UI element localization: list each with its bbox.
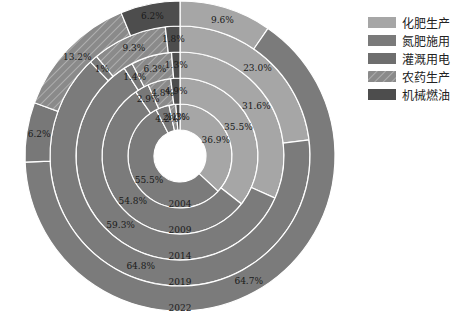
chart-rings (25, 1, 335, 311)
ring-year-label: 2022 (169, 303, 192, 313)
ring-year-label: 2004 (169, 199, 192, 209)
segment-value-label: 1.8% (162, 34, 185, 44)
segment-value-label: 1.3% (167, 112, 190, 122)
legend-label: 机械燃油 (402, 86, 450, 103)
segment-value-label: 54.8% (118, 196, 147, 206)
segment-value-label: 9.6% (211, 15, 234, 25)
segment-value-label: 6.2% (28, 129, 51, 139)
legend-item-nitrogen-application: 氮肥施用 (368, 32, 450, 49)
legend-label: 灌溉用电 (402, 50, 450, 67)
segment-value-label: 6.2% (141, 11, 164, 21)
segment-value-label: 64.8% (126, 261, 155, 271)
segment-value-label: 31.6% (242, 101, 271, 111)
segment-value-label: 1% (95, 64, 110, 74)
ring-year-label: 2014 (169, 251, 192, 261)
segment-value-label: 1.3% (165, 60, 188, 70)
legend-swatch (368, 89, 396, 100)
legend-item-irrigation-electricity: 灌溉用电 (368, 50, 450, 67)
segment-value-label: 64.7% (234, 276, 263, 286)
segment-value-label: 6.3% (143, 64, 166, 74)
legend-item-fertilizer-production: 化肥生产 (368, 14, 450, 31)
segment-value-label: 36.9% (201, 135, 230, 145)
segment-value-label: 55.5% (135, 175, 164, 185)
segment-value-label: 1.4% (123, 72, 146, 82)
ring-year-label: 2009 (169, 225, 192, 235)
segment-value-label: 13.2% (63, 52, 92, 62)
legend: 化肥生产 氮肥施用 灌溉用电 农药生产 机械燃油 (368, 14, 450, 104)
legend-swatch (368, 17, 396, 28)
legend-swatch (368, 71, 396, 82)
legend-label: 农药生产 (402, 68, 450, 85)
segment-value-label: 23.0% (243, 63, 272, 73)
legend-item-pesticide-production: 农药生产 (368, 68, 450, 85)
segment-value-label: 59.3% (106, 220, 135, 230)
ring-year-label: 2019 (169, 277, 192, 287)
legend-label: 氮肥施用 (402, 32, 450, 49)
legend-swatch (368, 53, 396, 64)
segment-value-label: 4.9% (165, 86, 188, 96)
legend-swatch (368, 35, 396, 46)
segment-value-label: 9.3% (122, 43, 145, 53)
segment-value-label: 35.5% (224, 122, 253, 132)
legend-label: 化肥生产 (402, 14, 450, 31)
legend-item-machinery-fuel: 机械燃油 (368, 86, 450, 103)
